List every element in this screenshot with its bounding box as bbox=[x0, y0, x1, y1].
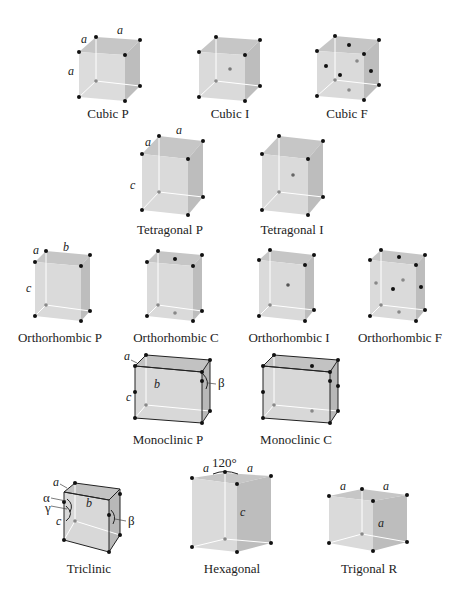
triclinic-label-gamma: γ bbox=[45, 500, 51, 516]
caption-monoclinic-c: Monoclinic C bbox=[260, 432, 332, 448]
monoclinic-p-label-beta: β bbox=[218, 375, 225, 391]
caption-orthorhombic-p: Orthorhombic P bbox=[18, 330, 102, 346]
caption-monoclinic-p: Monoclinic P bbox=[133, 432, 203, 448]
monoclinic-p-label-b: b bbox=[154, 377, 160, 392]
caption-triclinic: Triclinic bbox=[67, 561, 111, 577]
orthorhombic-p-label-b: b bbox=[63, 240, 69, 255]
cubic-f-cell bbox=[315, 34, 381, 102]
caption-orthorhombic-c: Orthorhombic C bbox=[133, 330, 219, 346]
caption-tetragonal-i: Tetragonal I bbox=[261, 222, 324, 238]
orthorhombic-p-label-c: c bbox=[26, 281, 31, 296]
hexagonal-angle-label: 120° bbox=[212, 455, 237, 471]
orthorhombic-f-cell bbox=[368, 248, 427, 323]
hexagonal-label-a1: a bbox=[203, 461, 209, 476]
orthorhombic-c-cell bbox=[145, 249, 204, 323]
caption-tetragonal-p: Tetragonal P bbox=[137, 222, 203, 238]
tetragonal-p-label-a1: a bbox=[145, 135, 151, 150]
cubic-p-label-a2: a bbox=[117, 23, 123, 38]
hexagonal-cell bbox=[190, 470, 273, 554]
caption-hexagonal: Hexagonal bbox=[204, 561, 260, 577]
monoclinic-p-cell bbox=[131, 353, 216, 425]
tetragonal-i-cell bbox=[260, 134, 325, 217]
monoclinic-c-cell bbox=[261, 353, 340, 425]
orthorhombic-p-label-a: a bbox=[33, 243, 39, 258]
triclinic-label-c: c bbox=[56, 514, 61, 529]
trigonal-r-label-a3: a bbox=[378, 516, 384, 531]
trigonal-r-label-a2: a bbox=[383, 479, 389, 494]
caption-orthorhombic-i: Orthorhombic I bbox=[248, 330, 329, 346]
cubic-p-label-a1: a bbox=[81, 32, 87, 47]
triclinic-cell bbox=[51, 481, 126, 554]
caption-cubic-i: Cubic I bbox=[211, 106, 250, 122]
orthorhombic-i-cell bbox=[257, 248, 316, 323]
triclinic-label-a: a bbox=[53, 475, 59, 490]
caption-cubic-f: Cubic F bbox=[326, 106, 368, 122]
cubic-i-cell bbox=[197, 35, 262, 103]
triclinic-label-b: b bbox=[86, 496, 92, 511]
trigonal-r-label-a1: a bbox=[340, 479, 346, 494]
hexagonal-label-a2: a bbox=[247, 461, 253, 476]
hexagonal-label-c: c bbox=[240, 505, 245, 520]
bravais-lattices-diagram bbox=[0, 0, 461, 590]
caption-cubic-p: Cubic P bbox=[87, 106, 129, 122]
monoclinic-p-label-a: a bbox=[124, 349, 130, 364]
trigonal-r-cell bbox=[327, 487, 409, 553]
monoclinic-p-label-c: c bbox=[126, 390, 131, 405]
orthorhombic-p-cell bbox=[33, 249, 92, 323]
caption-orthorhombic-f: Orthorhombic F bbox=[358, 330, 442, 346]
caption-trigonal-r: Trigonal R bbox=[341, 561, 397, 577]
triclinic-label-beta: β bbox=[128, 513, 135, 529]
tetragonal-p-label-c: c bbox=[130, 178, 135, 193]
tetragonal-p-label-a2: a bbox=[176, 123, 182, 138]
cubic-p-label-a3: a bbox=[68, 64, 74, 79]
